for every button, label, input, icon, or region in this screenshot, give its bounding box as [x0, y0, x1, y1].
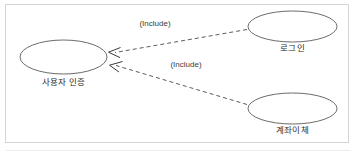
include-dependency-line-account-transfer[interactable] — [116, 66, 247, 105]
use-case-ellipse-login[interactable] — [248, 11, 337, 42]
use-case-label-login: 로그인 — [243, 43, 343, 53]
use-case-diagram-canvas: 사용자 인증 로그인 계좌이체 (Include) (Include) — [0, 0, 356, 155]
use-case-label-account-transfer: 계좌이체 — [243, 125, 343, 135]
include-arrowhead-login — [109, 48, 121, 58]
relationship-label-include-account-transfer: (Include) — [156, 60, 216, 70]
include-arrowhead-account-transfer — [110, 62, 123, 73]
use-case-label-user-auth: 사용자 인증 — [14, 77, 114, 87]
include-dependency-line-login[interactable] — [115, 30, 247, 53]
use-case-ellipse-user-auth[interactable] — [20, 40, 107, 74]
use-case-ellipse-account-transfer[interactable] — [248, 93, 337, 124]
relationship-label-include-login: (Include) — [125, 19, 185, 29]
